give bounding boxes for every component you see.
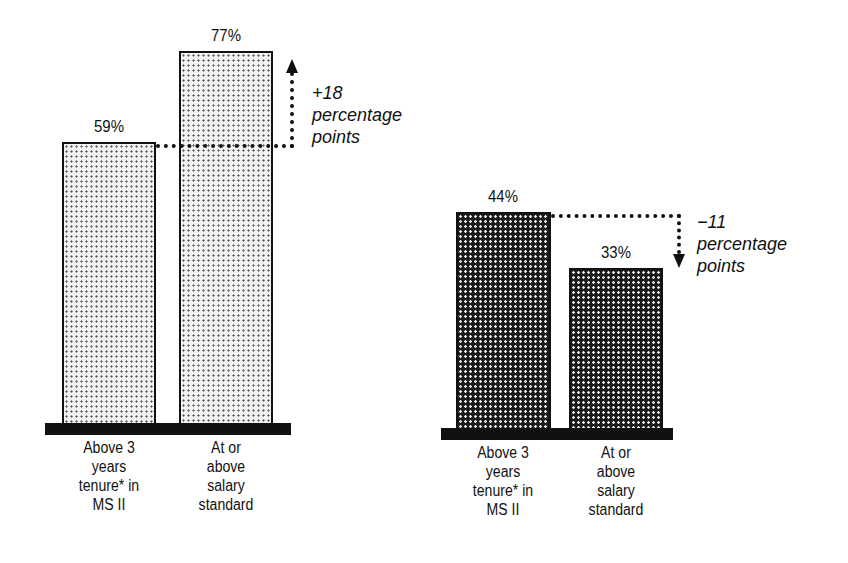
- value-label-left-bar-1: 59%: [68, 117, 151, 137]
- annotation-left-delta: +18: [312, 82, 402, 104]
- category-label-left-2: At or above salary standard: [178, 438, 275, 514]
- annotation-left-line2: percentage: [312, 104, 402, 126]
- connector-line-right: [551, 214, 681, 218]
- annotation-right-line2: percentage: [697, 233, 787, 255]
- annotation-right: −11 percentage points: [697, 211, 787, 277]
- value-label-right-bar-2: 33%: [575, 243, 658, 263]
- value-label-left-bar-2: 77%: [185, 26, 268, 46]
- category-label-left-1: Above 3 years tenure* in MS II: [61, 438, 158, 514]
- decrease-line: [677, 214, 681, 254]
- bar-left-tenure: [62, 142, 156, 426]
- increase-line: [290, 72, 294, 148]
- value-label-right-bar-1: 44%: [462, 187, 545, 207]
- connector-line-left: [156, 144, 294, 148]
- bar-right-salary: [569, 268, 663, 431]
- bar-right-tenure: [456, 212, 551, 431]
- annotation-left-line3: points: [312, 126, 402, 148]
- annotation-right-delta: −11: [697, 211, 787, 233]
- arrow-up-icon: [286, 59, 298, 73]
- bar-left-salary: [179, 51, 273, 426]
- category-label-right-1: Above 3 years tenure* in MS II: [455, 443, 552, 519]
- annotation-left: +18 percentage points: [312, 82, 402, 148]
- baseline-left: [45, 423, 291, 435]
- arrow-down-icon: [673, 254, 685, 268]
- annotation-right-line3: points: [697, 255, 787, 277]
- category-label-right-2: At or above salary standard: [568, 443, 665, 519]
- baseline-right: [441, 428, 673, 440]
